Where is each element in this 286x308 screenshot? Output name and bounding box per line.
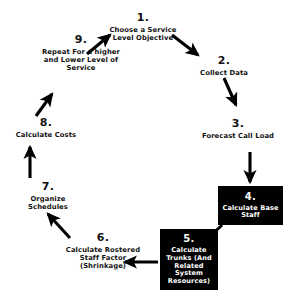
node-9-number: 9. — [40, 34, 122, 47]
node-3-forecast-call-load[interactable]: 3. Forecast Call Load — [198, 118, 278, 140]
node-4-calculate-base-staff[interactable]: 4. Calculate Base Staff — [218, 186, 283, 225]
node-2-collect-data[interactable]: 2. Collect Data — [182, 55, 266, 77]
node-7-label: Organize Schedules — [12, 195, 84, 211]
node-2-number: 2. — [182, 55, 266, 68]
arrow-2-to-3 — [224, 78, 236, 105]
node-5-label: Calculate Trunks (And Related System Res… — [160, 247, 218, 286]
node-4-number: 4. — [245, 191, 256, 203]
node-5-number: 5. — [183, 233, 194, 245]
node-5-calculate-trunks[interactable]: 5. Calculate Trunks (And Related System … — [160, 229, 218, 290]
node-3-label: Forecast Call Load — [198, 132, 278, 140]
arrow-8-to-9 — [36, 94, 52, 116]
node-4-label: Calculate Base Staff — [218, 205, 283, 221]
node-7-number: 7. — [12, 181, 84, 194]
node-8-calculate-costs[interactable]: 8. Calculate Costs — [4, 117, 88, 139]
node-2-label: Collect Data — [182, 69, 266, 77]
node-7-organize-schedules[interactable]: 7. Organize Schedules — [12, 181, 84, 211]
node-9-repeat-for-higher-and-lower-level[interactable]: 9. Repeat For a higher and Lower Level o… — [40, 34, 122, 72]
node-6-calculate-rostered-staff-factor[interactable]: 6. Calculate Rostered Staff Factor (Shri… — [62, 232, 144, 270]
node-3-number: 3. — [198, 118, 278, 131]
node-1-number: 1. — [100, 12, 186, 25]
node-9-label: Repeat For a higher and Lower Level of S… — [40, 48, 122, 72]
node-8-label: Calculate Costs — [4, 131, 88, 139]
node-6-number: 6. — [62, 232, 144, 245]
node-6-label: Calculate Rostered Staff Factor (Shrinka… — [62, 246, 144, 270]
node-8-number: 8. — [4, 117, 88, 130]
